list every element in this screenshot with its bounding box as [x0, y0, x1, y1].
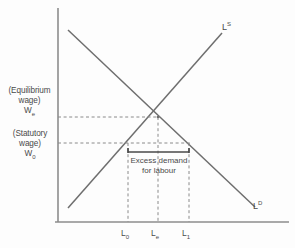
excess-demand-line1: Excess demand: [131, 156, 188, 165]
statutory-symbol: W0: [4, 149, 56, 161]
x-tick-l0-subscript: 0: [126, 234, 129, 240]
x-tick-le-subscript: e: [156, 234, 159, 240]
statutory-caption-line1: (Statutory: [13, 129, 48, 138]
labour-supply-curve: [68, 33, 222, 208]
demand-curve-label: LD: [253, 200, 262, 212]
equilibrium-wage-label: (Equilibrium wage) We: [2, 86, 57, 118]
equilibrium-symbol: We: [2, 106, 57, 118]
diagram-canvas: [0, 0, 295, 248]
statutory-wage-label: (Statutory wage) W0: [4, 129, 56, 161]
excess-demand-bracket: [128, 148, 189, 153]
labour-demand-curve: [68, 30, 255, 207]
demand-curve-superscript: D: [258, 200, 262, 206]
equilibrium-caption-line1: (Equilibrium: [8, 86, 50, 95]
labour-market-diagram: (Equilibrium wage) We (Statutory wage) W…: [0, 0, 295, 248]
statutory-symbol-subscript: 0: [32, 153, 35, 159]
excess-demand-line2: for labour: [142, 166, 176, 175]
excess-demand-annotation: Excess demand for labour: [124, 156, 194, 176]
x-tick-l1-subscript: 1: [187, 234, 190, 240]
x-tick-label-l1: L1: [182, 228, 190, 241]
supply-curve-superscript: S: [227, 21, 231, 27]
equilibrium-symbol-subscript: e: [32, 110, 35, 116]
statutory-caption-line2: wage): [19, 139, 41, 148]
x-tick-label-l0: L0: [121, 228, 129, 241]
equilibrium-caption-line2: wage): [19, 96, 41, 105]
x-tick-label-le: Le: [151, 228, 159, 241]
equilibrium-point: [157, 116, 160, 119]
supply-curve-label: LS: [222, 21, 231, 33]
